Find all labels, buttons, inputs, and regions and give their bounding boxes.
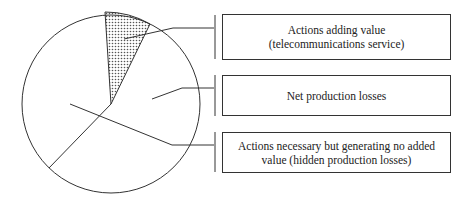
slice-divider bbox=[49, 104, 111, 168]
callout-line-2 bbox=[152, 88, 214, 99]
label-net-losses: Net production losses bbox=[222, 75, 451, 116]
label-line: Actions adding value bbox=[269, 23, 405, 37]
label-hidden-losses: Actions necessary but generating no adde… bbox=[222, 132, 451, 173]
label-line: Net production losses bbox=[287, 89, 387, 103]
label-line: (telecommunications service) bbox=[269, 37, 405, 51]
label-line: Actions necessary but generating no adde… bbox=[238, 139, 435, 153]
slice-value-adding bbox=[105, 12, 150, 104]
label-value-adding: Actions adding value (telecommunications… bbox=[222, 14, 451, 60]
label-line: value (hidden production losses) bbox=[238, 153, 435, 167]
